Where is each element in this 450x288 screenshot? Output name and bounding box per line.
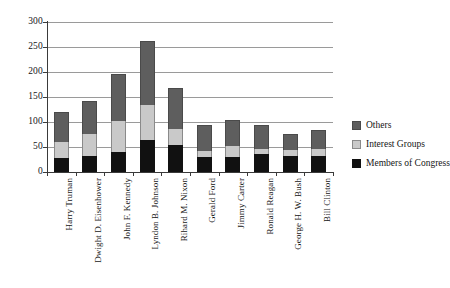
- bar-segment-others: [311, 130, 326, 150]
- bar-segment-others: [168, 88, 183, 129]
- bar-segment-others: [54, 112, 69, 142]
- x-axis-label: Harry Truman: [65, 178, 74, 230]
- x-tick-mark: [47, 172, 48, 176]
- y-axis-tick-labels: 300 250 200 150 100 50 0: [0, 22, 43, 172]
- bar-segment-interest-groups: [225, 146, 240, 157]
- bar-segment-members-of-congress: [140, 140, 155, 172]
- x-axis-label: Rihard M. Nixon: [180, 178, 189, 241]
- x-axis-tick-marks: [47, 172, 333, 176]
- x-tick-mark: [76, 172, 77, 176]
- x-axis-label: George H. W. Bush: [294, 178, 303, 250]
- legend-item-interest-groups: Interest Groups: [352, 139, 440, 150]
- x-tick-mark: [276, 172, 277, 176]
- x-axis-label: Bill Clinton: [323, 178, 332, 222]
- chart-legend: Others Interest Groups Members of Congre…: [352, 120, 440, 177]
- x-tick-mark: [133, 172, 134, 176]
- bar-4: [140, 41, 155, 172]
- bar-segment-members-of-congress: [254, 154, 269, 172]
- bar-segment-others: [140, 41, 155, 105]
- legend-label: Others: [366, 121, 391, 131]
- bar-segment-interest-groups: [111, 121, 126, 152]
- bar-5: [168, 88, 183, 172]
- bar-segment-others: [254, 125, 269, 149]
- x-axis-label: Dwight D. Eisenhower: [94, 178, 103, 263]
- bar-2: [82, 101, 97, 173]
- bar-segment-members-of-congress: [54, 158, 69, 172]
- y-tick-label: 200: [28, 67, 43, 77]
- bar-6: [197, 125, 212, 172]
- x-tick-mark: [161, 172, 162, 176]
- bar-8: [254, 125, 269, 172]
- x-axis-label: Lyndon B. Johnson: [151, 178, 160, 249]
- y-tick-label: 250: [28, 42, 43, 52]
- x-axis-label: Gerald Ford: [208, 178, 217, 223]
- x-axis-label: Ronald Reagan: [266, 178, 275, 235]
- bar-segment-members-of-congress: [111, 152, 126, 173]
- legend-label: Interest Groups: [366, 140, 425, 150]
- bar-segment-interest-groups: [82, 134, 97, 156]
- x-tick-mark: [190, 172, 191, 176]
- bar-segment-others: [82, 101, 97, 135]
- bar-segment-members-of-congress: [283, 156, 298, 172]
- bar-segment-members-of-congress: [168, 145, 183, 173]
- x-tick-mark: [247, 172, 248, 176]
- x-tick-mark: [219, 172, 220, 176]
- bar-3: [111, 74, 126, 172]
- x-tick-mark: [304, 172, 305, 176]
- bar-10: [311, 130, 326, 173]
- x-tick-mark: [333, 172, 334, 176]
- bar-7: [225, 120, 240, 172]
- bar-segment-interest-groups: [54, 142, 69, 158]
- y-tick-label: 150: [28, 92, 43, 102]
- bar-segment-members-of-congress: [197, 157, 212, 172]
- y-tick-label: 50: [33, 142, 43, 152]
- legend-item-members-of-congress: Members of Congress: [352, 158, 440, 169]
- x-axis-label: Jimmy Carter: [237, 178, 246, 228]
- bar-segment-others: [225, 120, 240, 146]
- bar-1: [54, 112, 69, 172]
- x-axis-label: John F. Kennedy: [123, 178, 132, 240]
- bar-segment-interest-groups: [140, 105, 155, 141]
- legend-swatch-interest-groups-icon: [352, 140, 361, 149]
- bar-segment-members-of-congress: [225, 157, 240, 173]
- legend-label: Members of Congress: [366, 159, 450, 169]
- bars-container: [47, 22, 333, 172]
- bar-9: [283, 134, 298, 172]
- bar-segment-interest-groups: [168, 129, 183, 145]
- y-tick-label: 100: [28, 117, 43, 127]
- legend-swatch-others-icon: [352, 121, 361, 130]
- bar-segment-interest-groups: [311, 149, 326, 156]
- legend-item-others: Others: [352, 120, 440, 131]
- bar-segment-members-of-congress: [82, 156, 97, 173]
- y-tick-label: 300: [28, 17, 43, 27]
- bar-segment-others: [111, 74, 126, 121]
- legend-swatch-members-of-congress-icon: [352, 159, 361, 168]
- x-axis-category-labels: Harry TrumanDwight D. EisenhowerJohn F. …: [47, 178, 333, 282]
- x-tick-mark: [104, 172, 105, 176]
- bar-segment-others: [283, 134, 298, 150]
- bar-segment-others: [197, 125, 212, 151]
- bar-segment-members-of-congress: [311, 156, 326, 172]
